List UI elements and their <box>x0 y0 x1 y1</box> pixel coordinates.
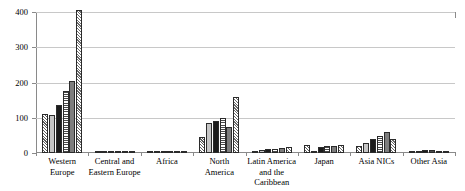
bar <box>115 151 121 153</box>
bar <box>167 151 173 153</box>
bar <box>226 127 232 153</box>
bar <box>161 151 167 153</box>
bar <box>49 115 55 153</box>
bar <box>42 114 48 153</box>
bar <box>356 146 362 153</box>
bar <box>429 150 435 153</box>
bar <box>384 132 390 153</box>
bar <box>199 137 205 153</box>
plot-right-border <box>455 12 456 18</box>
bar <box>416 151 422 153</box>
bar <box>233 97 239 153</box>
bar <box>181 151 187 153</box>
x-axis-label: Other Asia <box>393 156 465 167</box>
bar <box>76 10 82 153</box>
x-tick-mark <box>455 152 456 156</box>
bar-group <box>350 12 402 153</box>
bar <box>63 91 69 153</box>
bar <box>69 81 75 153</box>
bar <box>206 123 212 153</box>
y-tick-label-300: 300 <box>0 43 28 52</box>
bar-group <box>88 12 140 153</box>
bar <box>409 151 415 153</box>
bar <box>265 149 271 153</box>
bar <box>304 145 310 153</box>
bar <box>363 143 369 153</box>
bar <box>174 151 180 153</box>
bar <box>272 149 278 153</box>
bar-chart: 400 300 200 100 0 WesternEuropeCentral a… <box>0 0 465 191</box>
bar <box>129 151 135 153</box>
bar <box>318 147 324 153</box>
bar <box>422 150 428 153</box>
y-tick-label-0: 0 <box>0 149 28 158</box>
bar-group <box>403 12 455 153</box>
bar <box>331 146 337 153</box>
bar-group <box>36 12 88 153</box>
bar-group <box>298 12 350 153</box>
bar <box>108 151 114 153</box>
bar-group <box>246 12 298 153</box>
bar <box>377 136 383 153</box>
bar <box>259 150 265 153</box>
bar <box>122 151 128 153</box>
x-axis-label-line: and the <box>236 167 308 178</box>
bar <box>213 121 219 153</box>
x-axis-label-line: Other Asia <box>393 156 465 167</box>
y-tick-label-200: 200 <box>0 79 28 88</box>
bar <box>56 105 62 153</box>
bar <box>252 151 258 153</box>
x-axis-label-line: Eastern Europe <box>78 167 150 178</box>
bar-group <box>193 12 245 153</box>
y-tick-label-100: 100 <box>0 114 28 123</box>
bar <box>324 146 330 153</box>
bar <box>147 151 153 153</box>
plot-area <box>36 12 455 153</box>
x-axis-label-line: Caribbean <box>236 177 308 188</box>
bar <box>95 151 101 153</box>
bar <box>370 139 376 153</box>
bar <box>338 145 344 153</box>
bar <box>443 151 449 153</box>
bar <box>154 151 160 153</box>
y-tick-label-400: 400 <box>0 8 28 17</box>
bar <box>279 148 285 153</box>
bar <box>311 151 317 153</box>
bar <box>220 118 226 153</box>
bar <box>390 139 396 153</box>
bar <box>101 151 107 153</box>
bar <box>286 147 292 153</box>
bar-group <box>141 12 193 153</box>
bar <box>436 151 442 153</box>
